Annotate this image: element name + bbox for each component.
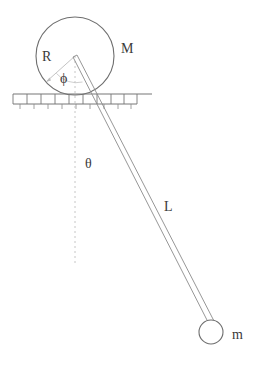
ground-hatched-band [13,94,152,109]
label-pendulum-angle: θ [85,156,92,171]
rod-edge-left [73,57,208,322]
label-disk-rotation-angle: ϕ [60,71,67,86]
diagram-canvas: M R ϕ θ L m [0,0,267,374]
bob-circle [199,320,223,344]
physics-diagram: M R ϕ θ L m [0,0,267,374]
ground-hatch-ticks [20,104,131,109]
label-bob-mass: m [232,327,243,342]
label-pendulum-length: L [164,199,173,214]
pendulum-rod [73,55,214,322]
label-disk-radius: R [42,49,52,64]
label-disk-mass: M [121,41,134,56]
rod-edge-right [77,55,214,321]
